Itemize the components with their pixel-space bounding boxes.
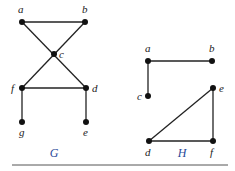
vertex-label-G-d: d	[92, 82, 98, 94]
vertex-label-G-e: e	[83, 126, 88, 138]
vertex-G-a	[19, 19, 25, 25]
vertex-G-c	[51, 51, 57, 57]
labels-layer: abcfdgeGabcedfH	[11, 3, 224, 160]
edges-layer	[22, 22, 213, 141]
vertex-label-G-g: g	[19, 126, 25, 138]
vertex-label-G-c: c	[59, 48, 64, 60]
vertex-label-G-f: f	[11, 82, 16, 94]
vertex-H-b	[209, 58, 215, 64]
vertex-G-e	[83, 119, 89, 125]
vertex-H-d	[146, 138, 152, 144]
graph-diagram: abcfdgeGabcedfH	[0, 0, 235, 171]
vertex-H-c	[145, 93, 151, 99]
vertex-label-H-c: c	[137, 90, 142, 102]
vertex-G-b	[82, 19, 88, 25]
edge-H-d-e	[149, 88, 213, 141]
vertex-H-a	[145, 58, 151, 64]
vertex-G-f	[19, 85, 25, 91]
vertex-label-H-b: b	[209, 42, 215, 54]
vertex-H-f	[210, 138, 216, 144]
vertex-label-H-a: a	[145, 42, 151, 54]
vertex-label-G-b: b	[82, 3, 88, 15]
vertex-label-H-f: f	[210, 146, 215, 158]
vertex-label-G-a: a	[18, 3, 24, 15]
vertex-H-e	[210, 85, 216, 91]
graph-label-G: G	[50, 146, 59, 160]
vertex-label-H-e: e	[219, 82, 224, 94]
vertex-label-H-d: d	[145, 146, 151, 158]
vertices-layer	[19, 19, 216, 144]
vertex-G-g	[19, 119, 25, 125]
graph-label-H: H	[177, 146, 188, 160]
vertex-G-d	[83, 85, 89, 91]
